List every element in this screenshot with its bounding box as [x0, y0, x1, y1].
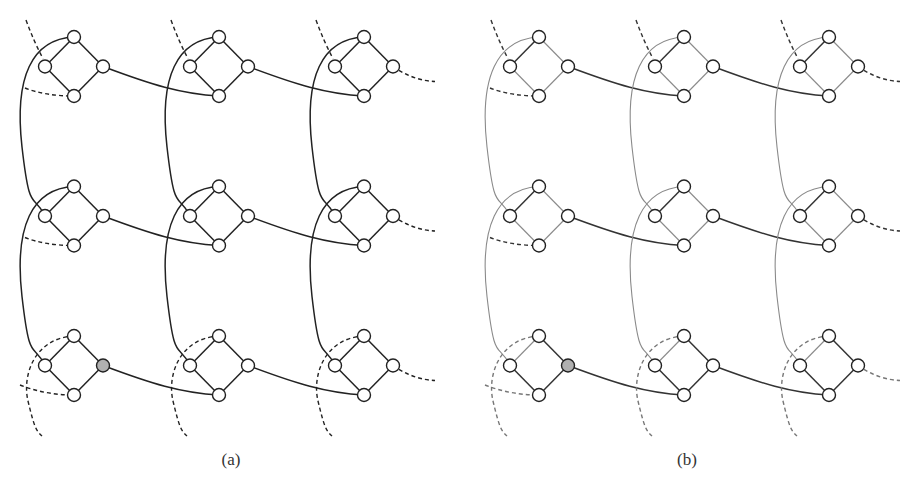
node-right [242, 210, 255, 223]
node-right [707, 359, 720, 372]
node-left [184, 60, 197, 73]
node-top [533, 31, 546, 44]
node-bottom [358, 239, 371, 252]
node-left [39, 60, 52, 73]
node-top [678, 330, 691, 343]
panel-a-caption: (a) [222, 450, 241, 470]
node-right [562, 210, 575, 223]
node-bottom [213, 239, 226, 252]
node-left [39, 359, 52, 372]
panel-b-edges [485, 20, 900, 436]
node-top [213, 330, 226, 343]
node-bottom [358, 90, 371, 103]
edge-dashed-up [491, 20, 508, 59]
node-top [213, 31, 226, 44]
node-right [562, 60, 575, 73]
edge-horizontal [103, 366, 219, 396]
node-top [358, 31, 371, 44]
node-left [184, 359, 197, 372]
node-bottom [533, 239, 546, 252]
node-bottom [68, 389, 81, 402]
node-left [329, 359, 342, 372]
panel-a-nodes [39, 31, 400, 402]
node-top [68, 31, 81, 44]
node-right [852, 60, 865, 73]
node-right [242, 359, 255, 372]
edge-horizontal [103, 216, 219, 246]
node-left [504, 60, 517, 73]
node-right [852, 210, 865, 223]
edge-dashed-down [782, 336, 829, 436]
node-right [97, 60, 110, 73]
edge-horizontal [713, 366, 829, 396]
node-left [504, 359, 517, 372]
node-right [242, 60, 255, 73]
node-right [97, 210, 110, 223]
node-bottom [213, 389, 226, 402]
node-right [852, 359, 865, 372]
edge-horizontal [248, 67, 364, 97]
node-left [504, 210, 517, 223]
edge-horizontal [248, 216, 364, 246]
edge-dashed-up [316, 20, 333, 59]
node-left [649, 60, 662, 73]
node-bottom [358, 389, 371, 402]
node-top [823, 180, 836, 193]
node-top [358, 330, 371, 343]
node-left [184, 210, 197, 223]
panel-b-nodes [504, 31, 865, 402]
node-top [678, 180, 691, 193]
node-right [387, 359, 400, 372]
edge-dashed-down [492, 336, 539, 436]
node-right [387, 210, 400, 223]
node-right [707, 60, 720, 73]
node-top [213, 180, 226, 193]
node-left [329, 60, 342, 73]
node-top [823, 31, 836, 44]
node-bottom [678, 239, 691, 252]
node-bottom [678, 90, 691, 103]
node-bottom [823, 389, 836, 402]
edge-dashed-up [636, 20, 653, 59]
edge-horizontal [248, 366, 364, 396]
edge-horizontal [568, 67, 684, 97]
node-left [649, 210, 662, 223]
node-bottom [823, 239, 836, 252]
node-bottom [533, 90, 546, 103]
edge-horizontal [713, 216, 829, 246]
node-top [68, 330, 81, 343]
highlighted-node [97, 359, 110, 372]
node-left [794, 60, 807, 73]
edge-horizontal [713, 67, 829, 97]
node-top [358, 180, 371, 193]
node-left [39, 210, 52, 223]
node-left [794, 210, 807, 223]
node-bottom [68, 239, 81, 252]
node-top [68, 180, 81, 193]
panel-a [20, 20, 435, 436]
edge-horizontal [568, 366, 684, 396]
node-left [329, 210, 342, 223]
edge-horizontal [568, 216, 684, 246]
node-right [387, 60, 400, 73]
edge-dashed-up [781, 20, 798, 59]
gadget-grid-figure [0, 0, 916, 487]
node-left [649, 359, 662, 372]
node-bottom [678, 389, 691, 402]
node-right [707, 210, 720, 223]
panel-a-edges [20, 20, 435, 436]
edge-dashed-up [171, 20, 188, 59]
node-bottom [213, 90, 226, 103]
panel-b-caption: (b) [677, 450, 697, 470]
edge-dashed-down [637, 336, 684, 436]
panel-b [485, 20, 900, 436]
node-left [794, 359, 807, 372]
node-top [823, 330, 836, 343]
edge-dashed-up [26, 20, 43, 59]
node-top [533, 330, 546, 343]
node-top [678, 31, 691, 44]
node-top [533, 180, 546, 193]
highlighted-node [562, 359, 575, 372]
node-bottom [68, 90, 81, 103]
edge-horizontal [103, 67, 219, 97]
